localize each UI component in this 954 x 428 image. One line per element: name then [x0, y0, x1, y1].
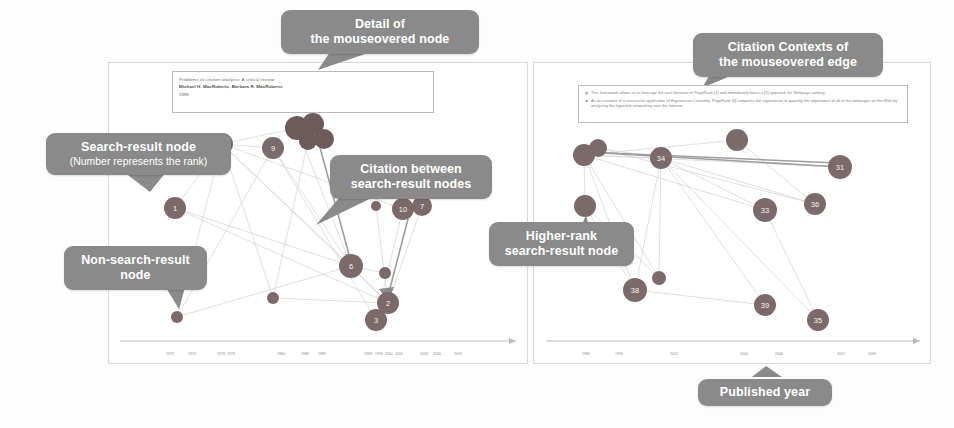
callout-line-1: Non-search-result [77, 253, 194, 268]
callout-line-1: Higher-rank [502, 229, 621, 244]
callout-line-1: Citation between [343, 162, 479, 177]
detail-year: 1989 [179, 91, 427, 99]
callout-line-2: search-result nodes [343, 177, 479, 192]
callout-line-2: node [77, 268, 194, 283]
callout-line-1: Detail of [294, 17, 466, 32]
citation-context-item: ◆ As an example of a successful applicat… [585, 98, 901, 109]
citation-context-text: This framework allows us to leverage the… [591, 90, 826, 96]
bullet-icon: ◆ [585, 90, 588, 96]
detail-title: Problems of citation analysis: A critica… [179, 76, 427, 83]
callout-citation-contexts-of-mouseovered-edge: Citation Contexts of the mouseovered edg… [693, 33, 883, 77]
callout-citation-between-search-result-nodes: Citation between search-result nodes [330, 155, 492, 199]
callout-line-2: search-result node [502, 244, 621, 259]
callout-detail-of-mouseovered-node: Detail of the mouseovered node [281, 10, 479, 54]
callout-non-search-result-node: Non-search-result node [64, 246, 207, 290]
callout-line-1: Search-result node [59, 140, 218, 155]
detail-authors: Michael H. MacRoberts, Barbara R. MacRob… [179, 83, 427, 91]
bullet-icon: ◆ [585, 98, 588, 109]
callout-published-year: Published year [698, 379, 832, 406]
callout-line-1: Published year [711, 385, 819, 400]
callout-higher-rank-search-result-node: Higher-rank search-result node [489, 222, 634, 266]
citation-contexts-tooltip: ◆ This framework allows us to leverage t… [578, 85, 908, 123]
callout-line-1: Citation Contexts of [706, 40, 870, 55]
citation-context-text: As an example of a successful applicatio… [591, 98, 901, 109]
node-detail-tooltip: Problems of citation analysis: A critica… [172, 71, 434, 113]
callout-sublabel: (Number represents the rank) [59, 155, 218, 168]
callout-line-2: the mouseovered edge [706, 55, 870, 70]
figure-root: 1 4 9 10 7 6 2 3 [0, 0, 954, 428]
citation-context-item: ◆ This framework allows us to leverage t… [585, 90, 901, 96]
callout-line-2: the mouseovered node [294, 32, 466, 47]
callout-search-result-node: Search-result node (Number represents th… [46, 133, 231, 175]
